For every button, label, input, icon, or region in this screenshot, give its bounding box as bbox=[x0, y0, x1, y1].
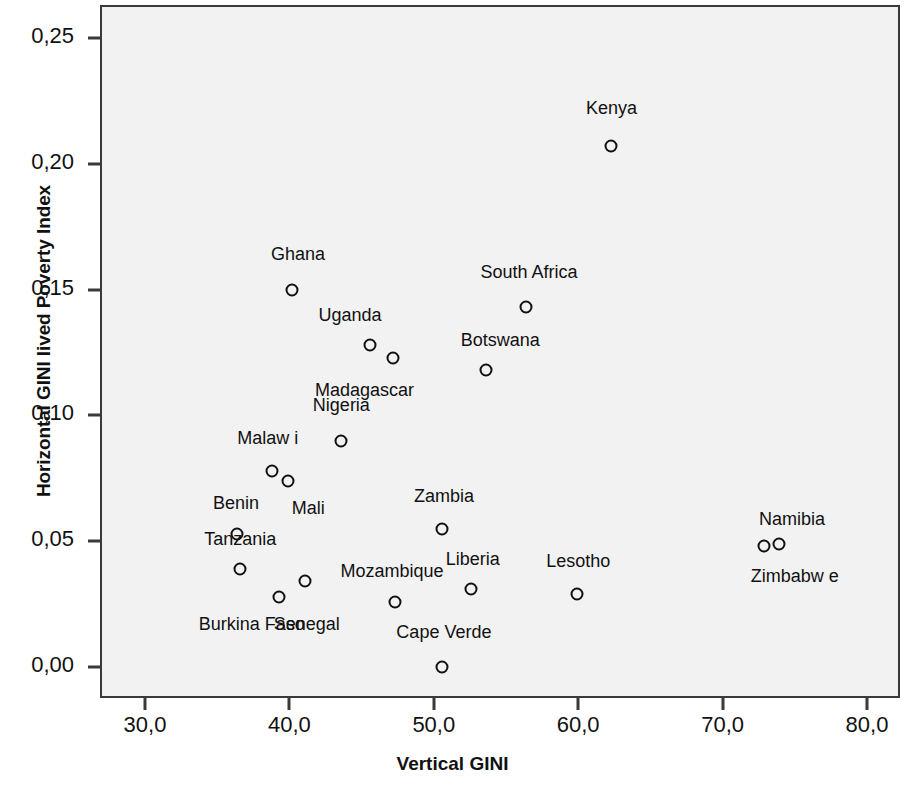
data-point-marker[interactable] bbox=[436, 522, 449, 535]
y-tick-mark bbox=[88, 666, 100, 669]
x-tick-mark bbox=[577, 698, 580, 710]
x-tick-mark bbox=[144, 698, 147, 710]
data-point-marker[interactable] bbox=[266, 464, 279, 477]
data-point-marker[interactable] bbox=[387, 351, 400, 364]
data-point-label: Uganda bbox=[319, 304, 382, 325]
data-point-marker[interactable] bbox=[758, 540, 771, 553]
x-tick-mark bbox=[721, 698, 724, 710]
x-tick-label: 80,0 bbox=[846, 712, 889, 738]
data-point-marker[interactable] bbox=[364, 338, 377, 351]
data-point-marker[interactable] bbox=[335, 434, 348, 447]
data-point-label: Mozambique bbox=[340, 561, 443, 582]
data-point-label: Benin bbox=[213, 493, 259, 514]
scatter-plot-figure: 0,000,050,100,150,200,25 30,040,050,060,… bbox=[0, 0, 905, 793]
data-point-label: South Africa bbox=[481, 261, 578, 282]
data-point-marker[interactable] bbox=[281, 474, 294, 487]
data-point-marker[interactable] bbox=[479, 364, 492, 377]
data-point-marker[interactable] bbox=[273, 590, 286, 603]
data-point-label: Ghana bbox=[271, 244, 325, 265]
data-point-label: Cape Verde bbox=[396, 621, 491, 642]
data-point-label: Botswana bbox=[461, 329, 540, 350]
y-tick-mark bbox=[88, 540, 100, 543]
data-point-marker[interactable] bbox=[520, 301, 533, 314]
x-tick-label: 40,0 bbox=[268, 712, 311, 738]
data-point-marker[interactable] bbox=[286, 283, 299, 296]
y-tick-mark bbox=[88, 414, 100, 417]
data-point-label: Nigeria bbox=[313, 395, 370, 416]
data-point-label: Zimbabw e bbox=[751, 566, 839, 587]
data-point-marker[interactable] bbox=[436, 661, 449, 674]
x-tick-mark bbox=[432, 698, 435, 710]
data-point-marker[interactable] bbox=[234, 562, 247, 575]
plot-area bbox=[100, 5, 900, 698]
data-point-label: Zambia bbox=[414, 485, 474, 506]
data-point-marker[interactable] bbox=[465, 583, 478, 596]
data-point-label: Liberia bbox=[446, 548, 500, 569]
data-point-label: Lesotho bbox=[546, 551, 610, 572]
x-tick-label: 60,0 bbox=[557, 712, 600, 738]
data-point-label: Mali bbox=[292, 498, 325, 519]
data-point-label: Kenya bbox=[586, 98, 637, 119]
data-point-marker[interactable] bbox=[570, 588, 583, 601]
data-point-marker[interactable] bbox=[772, 537, 785, 550]
y-tick-mark bbox=[88, 162, 100, 165]
y-tick-mark bbox=[88, 37, 100, 40]
x-axis-label: Vertical GINI bbox=[0, 753, 905, 775]
x-tick-label: 50,0 bbox=[412, 712, 455, 738]
y-tick-mark bbox=[88, 288, 100, 291]
data-point-marker[interactable] bbox=[299, 575, 312, 588]
data-point-label: Tanzania bbox=[204, 528, 276, 549]
x-tick-mark bbox=[866, 698, 869, 710]
data-point-marker[interactable] bbox=[388, 595, 401, 608]
x-tick-mark bbox=[288, 698, 291, 710]
x-tick-label: 30,0 bbox=[124, 712, 167, 738]
data-point-label: Malaw i bbox=[237, 428, 298, 449]
data-point-label: Namibia bbox=[759, 508, 825, 529]
x-tick-label: 70,0 bbox=[701, 712, 744, 738]
y-axis-label: Horizontal GINI lived Poverty Index bbox=[33, 61, 55, 621]
data-point-marker[interactable] bbox=[605, 140, 618, 153]
data-point-label: Burkina Faso bbox=[199, 614, 305, 635]
